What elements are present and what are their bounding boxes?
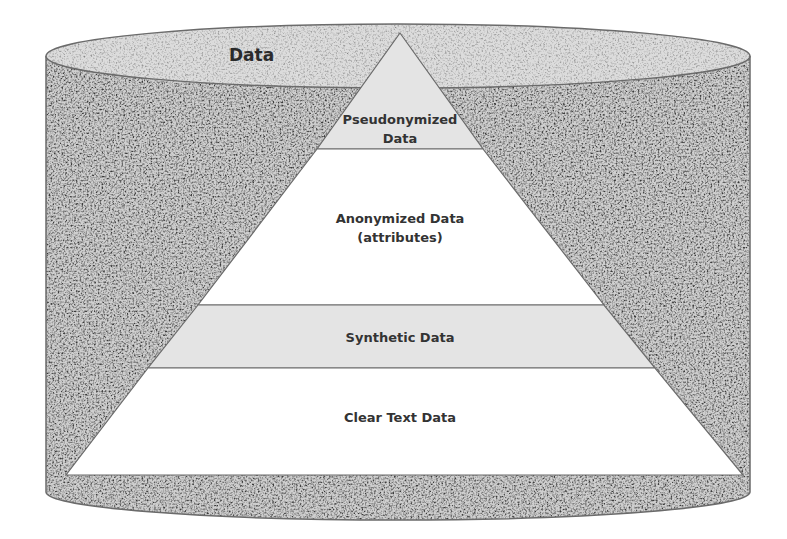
label-clear-text: Clear Text Data xyxy=(344,408,456,427)
label-anonymized: Anonymized Data (attributes) xyxy=(336,209,465,247)
label-pseudonymized-line2: Data xyxy=(343,129,458,148)
container-label: Data xyxy=(229,45,274,65)
label-pseudonymized: Pseudonymized Data xyxy=(343,110,458,148)
diagram-canvas xyxy=(0,0,787,539)
label-synthetic: Synthetic Data xyxy=(346,328,455,347)
label-anonymized-line2: (attributes) xyxy=(336,228,465,247)
label-anonymized-line1: Anonymized Data xyxy=(336,209,465,228)
label-pseudonymized-line1: Pseudonymized xyxy=(343,110,458,129)
